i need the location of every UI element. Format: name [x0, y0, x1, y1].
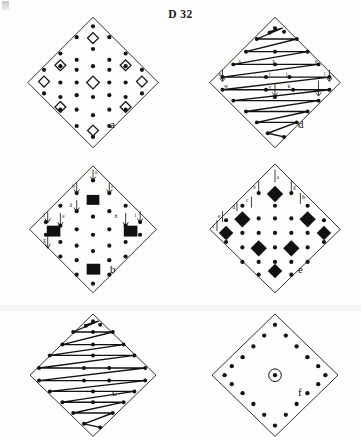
- svg-text:h: h: [115, 213, 118, 219]
- panel-label-e: e: [298, 263, 303, 275]
- svg-text:i: i: [286, 71, 288, 77]
- panel-c[interactable]: [8, 305, 178, 440]
- svg-text:c: c: [111, 183, 114, 189]
- zigzag-path-d: [222, 28, 329, 137]
- diamond-boundary: [210, 17, 341, 148]
- panel-d[interactable]: s x p u t i l w v k y: [190, 10, 360, 155]
- svg-text:b: b: [253, 184, 256, 190]
- panel-a[interactable]: [8, 10, 178, 155]
- svg-text:l: l: [324, 71, 326, 77]
- svg-text:s: s: [239, 58, 241, 64]
- svg-text:w: w: [224, 83, 228, 89]
- svg-text:e: e: [62, 213, 65, 219]
- panel-label-a: a: [110, 118, 115, 130]
- zigzag-path-c: [39, 321, 145, 427]
- plate-page: D 32: [0, 0, 361, 442]
- svg-text:d: d: [69, 202, 72, 208]
- centre-ring-dot-f: [269, 369, 282, 382]
- panel-label-b: b: [110, 263, 116, 275]
- panel-e[interactable]: a b g c h d e i: [190, 155, 360, 300]
- panel-b[interactable]: a b c d f e g h i: [8, 155, 178, 300]
- svg-text:v: v: [269, 84, 272, 90]
- svg-text:b: b: [72, 183, 75, 189]
- panel-label-d: d: [298, 118, 304, 130]
- svg-text:d: d: [232, 204, 235, 210]
- tick-marks-e: [217, 170, 300, 232]
- diamond-boundary: [28, 17, 159, 148]
- svg-text:e: e: [218, 213, 221, 219]
- svg-text:c: c: [246, 197, 249, 203]
- panel-f[interactable]: [190, 305, 360, 440]
- svg-text:g: g: [43, 237, 46, 243]
- svg-text:a: a: [277, 174, 280, 180]
- svg-text:k: k: [288, 83, 291, 89]
- panel-label-c: c: [112, 386, 117, 398]
- svg-text:t: t: [269, 71, 271, 77]
- svg-text:i: i: [135, 212, 137, 218]
- dot-cluster-a: [42, 24, 144, 139]
- panel-label-f: f: [298, 386, 302, 398]
